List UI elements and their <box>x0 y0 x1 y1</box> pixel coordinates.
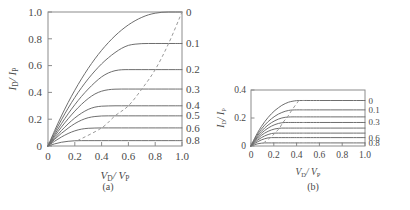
figure-caption-strip <box>0 198 410 210</box>
chart-panel-a: 00.20.40.60.81.0 00.20.40.60.81.0 00.10.… <box>0 0 205 196</box>
chart-b-xtick-0: 0 <box>249 150 254 160</box>
chart-a-plot-frame <box>48 12 182 146</box>
chart-a-xtick-5: 1.0 <box>175 150 189 162</box>
chart-b-right-edge-labels: 00.10.30.60.8 <box>369 96 381 148</box>
chart-b-xtick-3: 0.6 <box>313 150 325 160</box>
chart-b-xtick-1: 0.2 <box>268 150 280 160</box>
chart-b-xtick-2: 0.4 <box>291 150 303 160</box>
chart-a-x-tick-labels: 00.20.40.60.81.0 <box>45 150 189 162</box>
chart-a-ytick-5: 1.0 <box>28 6 42 18</box>
chart-a-xtick-3: 0.6 <box>122 150 136 162</box>
chart-a-ytick-0: 0 <box>37 140 43 152</box>
chart-a-right-label-6: 0.6 <box>186 122 200 134</box>
chart-a-right-edge-labels: 00.10.20.30.40.50.60.8 <box>186 6 200 147</box>
chart-a-ticks <box>48 12 182 146</box>
chart-a-right-label-1: 0.1 <box>186 37 200 49</box>
chart-b-right-label-2: 0.3 <box>369 117 381 127</box>
chart-b-ytick-2: 0.4 <box>234 85 246 95</box>
chart-b-saturation-locus <box>264 101 299 143</box>
chart-a-xtick-2: 0.4 <box>95 150 109 162</box>
chart-a-curve-6 <box>48 128 182 146</box>
chart-b-curve-5 <box>251 133 365 146</box>
chart-a-curves <box>48 12 182 146</box>
chart-b-saturation-locus <box>264 101 299 143</box>
chart-a-right-label-2: 0.2 <box>186 63 200 75</box>
chart-a-saturation-locus <box>77 12 182 141</box>
chart-a-curve-1 <box>48 43 182 146</box>
chart-a-curve-4 <box>48 106 182 146</box>
chart-a-right-label-5: 0.5 <box>186 109 200 121</box>
chart-b-ytick-1: 0.2 <box>234 113 246 123</box>
chart-a-ytick-4: 0.8 <box>28 33 42 45</box>
chart-panel-b: 00.20.4 00.20.40.60.81.0 00.10.30.60.8 I… <box>205 0 410 196</box>
chart-a-right-label-7: 0.8 <box>186 134 200 146</box>
chart-b-ytick-0: 0 <box>241 141 246 151</box>
chart-b-curve-0 <box>251 100 365 146</box>
chart-a-right-label-0: 0 <box>186 6 192 18</box>
chart-b-svg: 00.20.4 00.20.40.60.81.0 00.10.30.60.8 I… <box>205 0 410 196</box>
chart-a-xtick-1: 0.2 <box>68 150 82 162</box>
chart-a-ytick-3: 0.6 <box>28 59 42 71</box>
figure-container: 00.20.40.60.81.0 00.20.40.60.81.0 00.10.… <box>0 0 410 210</box>
chart-a-y-tick-labels: 00.20.40.60.81.0 <box>28 6 42 152</box>
chart-b-curves <box>251 100 365 146</box>
chart-b-xtick-5: 1.0 <box>359 150 371 160</box>
chart-b-right-label-4: 0.8 <box>369 138 381 148</box>
chart-a-curve-7 <box>48 141 182 146</box>
chart-a-curve-0 <box>48 12 182 146</box>
chart-b-xtick-4: 0.8 <box>336 150 348 160</box>
chart-a-curve-3 <box>48 89 182 146</box>
chart-a-xtick-0: 0 <box>45 150 51 162</box>
chart-a-xtick-4: 0.8 <box>148 150 162 162</box>
chart-a-caption: (a) <box>102 181 113 193</box>
chart-b-y-axis-title: ID/ IP <box>216 108 227 129</box>
chart-b-x-tick-labels: 00.20.40.60.81.0 <box>249 150 372 160</box>
chart-b-caption: (b) <box>307 181 319 193</box>
chart-a-right-label-3: 0.3 <box>186 83 200 95</box>
chart-a-saturation-locus <box>77 12 182 141</box>
chart-b-x-axis-title: VD/ VP <box>296 167 321 178</box>
chart-a-ytick-1: 0.2 <box>28 113 42 125</box>
chart-b-right-label-1: 0.1 <box>369 105 380 115</box>
chart-b-y-tick-labels: 00.20.4 <box>234 85 246 151</box>
chart-a-y-axis-title: ID/ IP <box>6 68 20 92</box>
chart-a-ytick-2: 0.4 <box>28 86 42 98</box>
chart-a-svg: 00.20.40.60.81.0 00.20.40.60.81.0 00.10.… <box>0 0 205 196</box>
